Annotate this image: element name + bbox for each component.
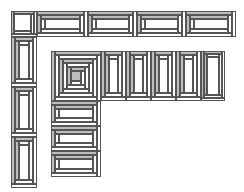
quilt-block [187,12,236,37]
quilt-block [152,52,176,101]
quilt-block-corner [12,12,37,37]
inner-top-row [102,52,225,101]
outer-left-column [12,38,37,188]
quilt-block [38,12,88,37]
quilt-block [12,88,37,137]
inner-corner-block [52,52,101,101]
outer-top-row [38,12,236,37]
quilt-block [102,52,126,101]
outer-corner-block [12,12,37,37]
quilt-block-center [52,52,101,101]
quilt-block [138,12,186,37]
quilt-diagram [0,0,244,192]
quilt-block [52,102,101,126]
quilt-block [202,52,225,101]
quilt-block [127,52,151,101]
inner-left-column [52,102,101,177]
quilt-block [12,138,37,188]
quilt-block [177,52,201,101]
quilt-block [12,38,37,87]
quilt-block [89,12,137,37]
quilt-block [52,127,101,151]
quilt-block [52,152,101,177]
